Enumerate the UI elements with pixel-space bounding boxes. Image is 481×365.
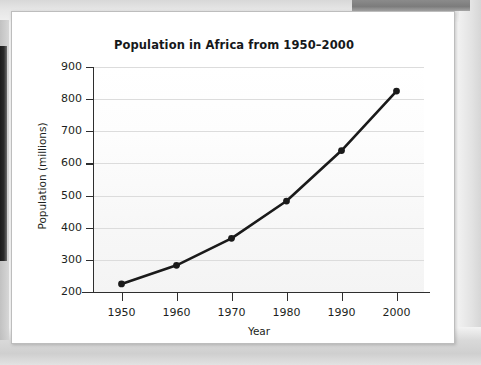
y-axis-tick-label-wrap: 300 [32,254,82,265]
x-axis-tick-label: 1990 [312,306,372,319]
x-axis-tick [232,293,233,301]
y-axis-tick [86,260,94,261]
gridline-y [94,67,424,68]
gridline-y [94,131,424,132]
x-axis-tick [342,293,343,301]
y-axis-tick-label: 900 [36,61,82,72]
y-axis-tick-label: 500 [36,190,82,201]
y-axis-tick-label-wrap: 600 [32,157,82,168]
x-axis-tick-label: 2000 [367,306,427,319]
plot-area [94,67,424,292]
y-axis-tick-label-wrap: 500 [32,190,82,201]
y-axis-tick-label: 700 [36,125,82,136]
y-axis-tick-label: 600 [36,157,82,168]
x-axis-tick-label: 1970 [202,306,262,319]
y-axis-tick-label: 400 [36,222,82,233]
y-axis-tick [86,99,94,100]
x-axis-tick [177,293,178,301]
y-axis-tick-label-wrap: 700 [32,125,82,136]
y-axis-tick-label: 800 [36,93,82,104]
y-axis-tick-label: 300 [36,254,82,265]
figure-sheet: Population in Africa from 1950–2000 Popu… [11,11,455,344]
x-axis-tick [122,293,123,301]
y-axis-tick [86,292,94,293]
scanned-page-backdrop: Population in Africa from 1950–2000 Popu… [0,0,481,365]
x-axis-tick-label: 1950 [92,306,152,319]
page-backdrop-right-edge [459,0,481,365]
y-axis-tick-label-wrap: 200 [32,286,82,297]
y-axis-tick-label-wrap: 900 [32,61,82,72]
gridline-y [94,228,424,229]
y-axis-tick-label: 200 [36,286,82,297]
x-axis-tick-label: 1980 [257,306,317,319]
y-axis-tick [86,196,94,197]
y-axis-title: Population (millions) [36,86,48,266]
chart-title: Population in Africa from 1950–2000 [12,38,456,52]
y-axis-tick [86,67,94,68]
gridline-y [94,196,424,197]
gridline-y [94,163,424,164]
x-axis-tick [287,293,288,301]
y-axis-tick [86,228,94,229]
y-axis-tick-label-wrap: 800 [32,93,82,104]
gridline-y [94,260,424,261]
y-axis-tick [86,131,94,132]
x-axis-title: Year [94,325,424,337]
x-axis-tick [397,293,398,301]
x-axis-line [82,292,430,293]
y-axis-tick-label-wrap: 400 [32,222,82,233]
gridline-y [94,99,424,100]
page-shadow-band [352,0,470,11]
y-axis-tick [86,163,94,164]
book-gutter-shadow [0,46,7,261]
x-axis-tick-label: 1960 [147,306,207,319]
